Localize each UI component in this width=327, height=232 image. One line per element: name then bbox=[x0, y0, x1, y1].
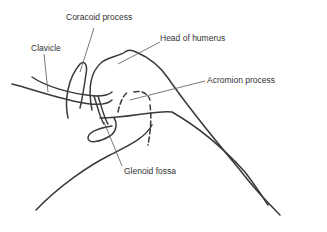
leader-coracoid bbox=[80, 28, 94, 72]
acromion-dashed bbox=[118, 91, 151, 145]
coracoid-shape bbox=[67, 62, 87, 118]
leader-clavicle bbox=[44, 54, 48, 92]
leader-glenoid bbox=[104, 122, 122, 166]
label-glenoid-fossa: Glenoid fossa bbox=[124, 167, 176, 176]
humerus-shaft-lower bbox=[100, 112, 268, 205]
label-acromion-process: Acromion process bbox=[207, 76, 275, 85]
label-coracoid-process: Coracoid process bbox=[66, 13, 132, 22]
clavicle-shape bbox=[12, 84, 112, 104]
leader-acromion bbox=[130, 81, 205, 100]
label-clavicle: Clavicle bbox=[31, 44, 61, 53]
label-head-of-humerus: Head of humerus bbox=[160, 34, 225, 43]
glenoid-lines bbox=[94, 96, 108, 124]
